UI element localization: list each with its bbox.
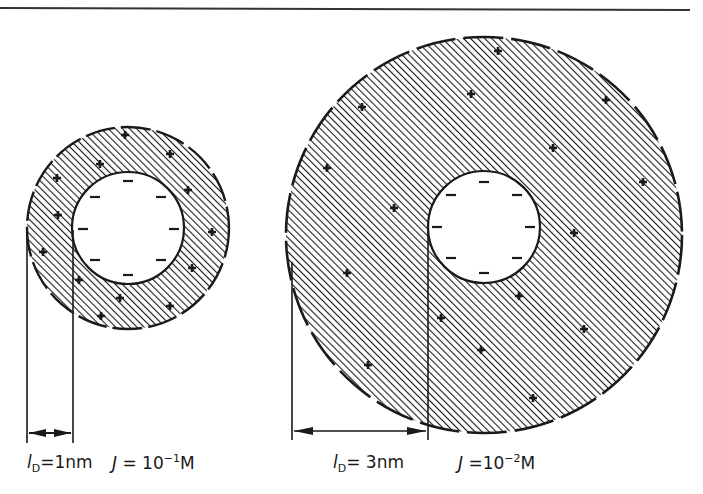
right-ionic-strength-label: J =10−2M (458, 452, 535, 473)
right-arrowhead-left (294, 427, 313, 435)
right-particle-core (428, 171, 540, 283)
left-ionic-strength-label: J = 10−1M (112, 452, 195, 473)
top-rule (0, 8, 690, 10)
double-layer-diagram (0, 0, 703, 494)
left-particle-core (72, 172, 184, 284)
left-arrowhead-left (29, 429, 46, 437)
right-debye-length-label: lD= 3nm (333, 452, 404, 475)
left-debye-length-label: lD=1nm (27, 452, 93, 475)
right-arrowhead-right (407, 427, 426, 435)
left-arrowhead-right (54, 429, 71, 437)
left-particle-diagram (27, 127, 229, 443)
right-particle-diagram (286, 37, 682, 440)
